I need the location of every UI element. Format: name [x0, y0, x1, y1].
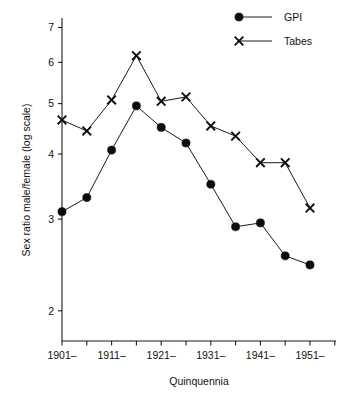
- y-axis-title: Sex ratio male/female (log scale): [20, 104, 32, 257]
- line-chart: 765432 1901–1911–1921–1931–1941–1951– GP…: [0, 0, 350, 405]
- data-point-circle-marker: [108, 146, 116, 154]
- x-tick-label: 1951–: [295, 349, 324, 361]
- data-point-circle-marker: [157, 123, 165, 131]
- x-axis-title: Quinquennia: [169, 375, 229, 387]
- x-tick-label: 1931–: [196, 349, 225, 361]
- legend-label: GPI: [284, 11, 302, 23]
- data-point-circle-marker: [83, 193, 91, 201]
- x-tick-label-group: 1901–1911–1921–1931–1941–1951–: [47, 349, 324, 361]
- chart-figure: 765432 1901–1911–1921–1931–1941–1951– GP…: [0, 0, 350, 405]
- series-layer: [58, 51, 315, 269]
- series-line-gpi: [62, 106, 310, 265]
- data-point-x-marker: [207, 122, 216, 131]
- series-line-tabes: [62, 56, 310, 208]
- data-point-circle-marker: [58, 208, 66, 216]
- data-point-x-marker: [157, 97, 166, 106]
- y-tick-group: [58, 27, 62, 310]
- y-tick-label: 4: [48, 148, 54, 160]
- data-point-x-marker: [306, 204, 315, 213]
- x-tick-label: 1921–: [147, 349, 176, 361]
- y-tick-label: 7: [48, 21, 54, 33]
- data-point-circle-marker: [207, 180, 215, 188]
- y-tick-label: 6: [48, 56, 54, 68]
- data-point-x-marker: [182, 93, 191, 102]
- x-tick-group: [62, 341, 335, 346]
- legend-label: Tabes: [284, 35, 312, 47]
- data-point-circle-marker: [182, 139, 190, 147]
- data-point-x-marker: [107, 96, 116, 105]
- y-tick-label-group: 765432: [48, 21, 54, 316]
- y-tick-label: 3: [48, 213, 54, 225]
- data-point-circle-marker: [256, 219, 264, 227]
- data-point-x-marker: [83, 127, 92, 136]
- x-tick-label: 1941–: [246, 349, 275, 361]
- data-point-circle-marker: [281, 252, 289, 260]
- legend-circle-marker: [235, 13, 243, 21]
- data-point-circle-marker: [232, 223, 240, 231]
- data-point-x-marker: [132, 51, 141, 60]
- y-tick-label: 2: [48, 305, 54, 317]
- x-tick-label: 1911–: [97, 349, 126, 361]
- data-point-circle-marker: [306, 261, 314, 269]
- series-gpi: [58, 102, 314, 269]
- legend-item-tabes: Tabes: [235, 35, 312, 47]
- data-point-circle-marker: [132, 102, 140, 110]
- legend-item-gpi: GPI: [235, 11, 302, 23]
- chart-legend: GPITabes: [235, 11, 312, 47]
- series-tabes: [58, 51, 315, 212]
- y-tick-label: 5: [48, 97, 54, 109]
- x-tick-label: 1901–: [47, 349, 76, 361]
- data-point-x-marker: [231, 132, 240, 141]
